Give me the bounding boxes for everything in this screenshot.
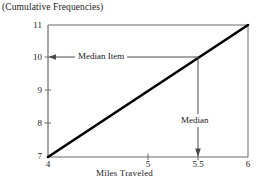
y-tick-label-8: 8 <box>28 118 42 128</box>
median-annotation-label: Median <box>181 115 209 125</box>
y-tick-label-11: 11 <box>28 20 42 30</box>
median-arrowhead-icon <box>195 149 201 158</box>
y-tick-label-9: 9 <box>28 85 42 95</box>
x-tick-label-5-5: 5.5 <box>186 159 210 169</box>
x-axis-title: Miles Traveled <box>96 168 153 179</box>
x-tick-label-6: 6 <box>236 159 260 169</box>
ogive-line <box>48 25 248 157</box>
median-item-annotation-label: Median Item <box>75 51 127 61</box>
cumulative-frequency-chart: (Cumulative Frequencies) 11 10 9 8 7 4 5… <box>0 0 273 183</box>
median-item-arrowhead-icon <box>49 54 57 60</box>
y-tick-label-10: 10 <box>28 52 42 62</box>
x-tick-label-4: 4 <box>36 159 60 169</box>
